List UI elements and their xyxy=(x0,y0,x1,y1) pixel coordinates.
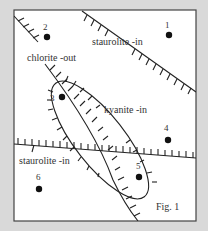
kyanite-in-label: kyanite -in xyxy=(104,104,147,115)
staurolite-in-lower-label: staurolite -in xyxy=(19,155,70,166)
point-4-label: 4 xyxy=(164,123,169,133)
point-6-label: 6 xyxy=(36,172,41,182)
point-1-label: 1 xyxy=(165,20,170,30)
point-5-label: 5 xyxy=(136,161,141,171)
point-6-marker xyxy=(36,186,42,192)
point-5-marker xyxy=(136,174,142,180)
point-3-marker xyxy=(59,94,65,100)
point-3-label: 3 xyxy=(50,93,55,103)
figure-caption: Fig. 1 xyxy=(156,201,179,212)
point-2-marker xyxy=(44,34,50,40)
point-1-marker xyxy=(166,32,172,38)
point-4-marker xyxy=(165,137,171,143)
staurolite-in-upper-label: staurolite -in xyxy=(92,36,143,47)
point-2-label: 2 xyxy=(43,22,48,32)
chlorite-out-label: chlorite -out xyxy=(27,52,76,63)
isograd-diagram: 1 2 3 4 5 6 staurolite -in chlorite -out… xyxy=(0,0,208,231)
